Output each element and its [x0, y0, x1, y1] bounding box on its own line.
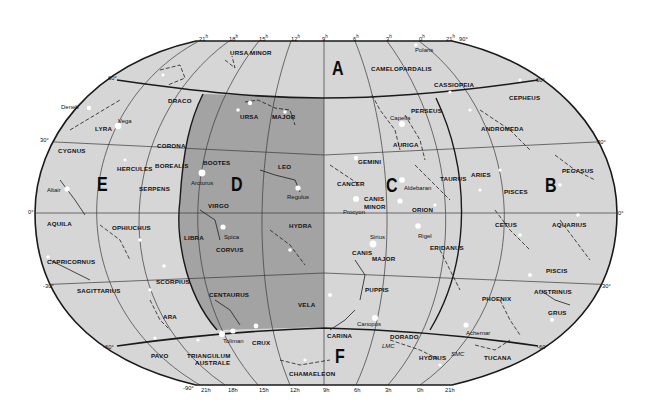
star-label: Sirius [370, 234, 385, 240]
dec-tick: 30° [597, 140, 606, 146]
constellation-label: CORVUS [216, 247, 244, 253]
ra-tick-top: 3h [386, 35, 392, 43]
constellation-label: TAURUS [440, 176, 467, 182]
constellation-label: CENTAURUS [209, 292, 249, 298]
region-letter-e: E [97, 174, 108, 194]
constellation-label: PERSEUS [411, 108, 442, 114]
dec-tick: 0° [28, 210, 34, 216]
star-label: Arcturus [191, 180, 213, 186]
ra-tick-bottom: 9h [323, 388, 329, 394]
ra-tick-bottom: 15h [259, 388, 269, 394]
ra-tick-top: 0h [419, 35, 425, 43]
constellation-label: PEGASUS [562, 168, 594, 174]
constellation-label: CASSIOPEIA [434, 82, 474, 88]
ra-tick-bottom: 0h [417, 388, 423, 394]
ra-tick-top: 12h [291, 35, 300, 43]
constellation-label: CANCER [337, 181, 365, 187]
constellation-label: BOOTES [203, 160, 230, 166]
dec-tick: 60° [108, 76, 117, 82]
constellation-label: LIBRA [184, 235, 204, 241]
region-letter-f: F [335, 346, 345, 366]
ra-unit: h [422, 34, 425, 39]
constellation-label: CETUS [495, 222, 517, 228]
star-label: Polaris [415, 47, 433, 53]
ra-tick-top: 6h [353, 35, 359, 43]
dec-tick: -30° [43, 284, 54, 290]
dec-tick: -30° [600, 284, 611, 290]
star-label: LMC [382, 343, 395, 349]
constellation-label: PAVO [151, 353, 168, 359]
ra-tick-bottom: 21h [445, 388, 455, 394]
ra-unit: h [235, 34, 238, 39]
constellation-label: PUPPIS [365, 287, 389, 293]
dec-tick: -60° [103, 345, 114, 351]
constellation-label: PISCIS [546, 268, 568, 274]
ra-tick-top: 21h [446, 35, 455, 43]
constellation-label: ANDROMEDA [481, 126, 524, 132]
star-label: Rigel [418, 233, 432, 239]
dec-tick: 30° [40, 138, 49, 144]
star-label: Toliman [223, 338, 244, 344]
star-label: Canopus [357, 321, 381, 327]
constellation-label: HERCULES [117, 166, 153, 172]
ra-tick-top: 18h [229, 35, 238, 43]
constellation-label: CANIS [352, 250, 372, 256]
constellation-label: LYRA [95, 126, 112, 132]
star-label: Spica [224, 234, 239, 240]
constellation-label: HYDRA [289, 223, 312, 229]
constellation-label: GEMINI [358, 159, 381, 165]
constellation-label: GRUS [548, 310, 567, 316]
constellation-label: PISCES [504, 189, 528, 195]
constellation-label: URSA [240, 114, 258, 120]
constellation-label: MAJOR [272, 114, 295, 120]
constellation-label: MINOR [364, 204, 386, 210]
constellation-label: URSA MINOR [230, 50, 272, 56]
constellation-label: DRACO [168, 98, 192, 104]
star-label: SMC [451, 351, 464, 357]
region-d-shaded [179, 94, 324, 330]
constellation-label: SAGITTARIUS [77, 288, 121, 294]
ra-tick-top: 21h [199, 35, 208, 43]
constellation-label: CAPRICORNUS [47, 259, 95, 265]
constellation-label: CAMELOPARDALIS [371, 66, 432, 72]
constellation-label: CARINA [327, 333, 352, 339]
star-label: Capella [390, 115, 410, 121]
ra-unit: h [356, 34, 359, 39]
constellation-label: CANIS [364, 196, 384, 202]
constellation-label: AQUILA [47, 221, 72, 227]
ra-unit: h [452, 34, 455, 39]
ra-unit: h [297, 34, 300, 39]
constellation-label: AUSTRALE [195, 360, 230, 366]
ra-unit: h [389, 34, 392, 39]
constellation-label: BOREALIS [155, 163, 189, 169]
constellation-label: ERIDANUS [430, 245, 464, 251]
constellation-label: CHAMAELEON [289, 371, 335, 377]
region-letter-d: D [231, 174, 243, 194]
ra-tick-bottom: 12h [290, 388, 300, 394]
ra-tick-bottom: 21h [201, 388, 211, 394]
constellation-label: OPHIUCHUS [112, 225, 151, 231]
ra-tick-bottom: 18h [228, 388, 238, 394]
constellation-label: HYDRUS [419, 355, 446, 361]
constellation-label: CEPHEUS [509, 95, 540, 101]
constellation-label: AQUARIUS [552, 222, 587, 228]
dec-tick: 0° [618, 211, 624, 217]
ra-unit: h [205, 34, 208, 39]
constellation-label: SERPENS [139, 186, 170, 192]
star-label: Altair [47, 187, 61, 193]
constellation-label: TUCANA [484, 355, 511, 361]
constellation-label: VIRGO [208, 203, 229, 209]
region-letter-a: A [332, 58, 344, 78]
star-label: Regulus [287, 194, 309, 200]
ra-unit: h [325, 34, 328, 39]
constellation-label: ARIES [471, 172, 491, 178]
constellation-label: CRUX [252, 340, 270, 346]
constellation-label: VELA [298, 302, 315, 308]
dec-tick: -60° [537, 345, 548, 351]
constellation-label: LEO [278, 164, 291, 170]
star-label: Procyon [343, 209, 365, 215]
constellation-label: ARA [163, 314, 177, 320]
ra-tick-bottom: 6h [354, 388, 360, 394]
ra-tick-top: 90° [459, 37, 468, 43]
constellation-label: AURIGA [393, 142, 419, 148]
